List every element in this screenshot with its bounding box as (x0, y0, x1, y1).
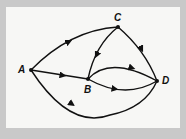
edge-b-d-upper (88, 67, 157, 81)
edge-b-d-lower (88, 79, 157, 90)
edge-a-c (31, 27, 118, 70)
node-label-a: A (18, 64, 25, 75)
graph-canvas (0, 0, 186, 139)
edge-a-b (31, 70, 88, 79)
node-c (116, 25, 120, 29)
node-label-b: B (84, 84, 91, 95)
node-label-c: C (114, 12, 121, 23)
edge-c-b (88, 27, 118, 79)
node-b (86, 77, 90, 81)
node-d (155, 79, 159, 83)
edge-c-d (118, 27, 157, 81)
edge-a-d (31, 70, 157, 118)
node-label-d: D (162, 75, 169, 86)
node-a (29, 68, 33, 72)
